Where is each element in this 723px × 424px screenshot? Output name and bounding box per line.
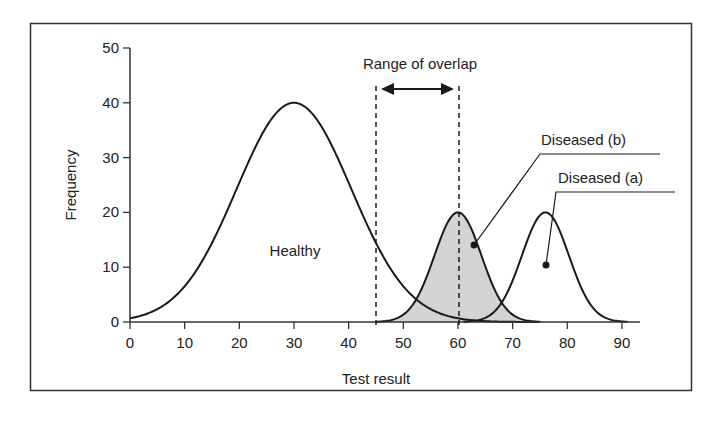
y-tick-label: 40 xyxy=(102,94,119,111)
x-tick-label: 80 xyxy=(559,334,576,351)
healthy-label: Healthy xyxy=(270,242,321,259)
x-tick-label: 50 xyxy=(395,334,412,351)
overlap-double-arrow-icon xyxy=(381,83,454,95)
x-tick-label: 0 xyxy=(126,334,134,351)
y-axis-title: Frequency xyxy=(62,149,79,220)
y-tick-label: 50 xyxy=(102,39,119,56)
x-tick-label: 20 xyxy=(231,334,248,351)
x-tick-label: 70 xyxy=(504,334,521,351)
diseased-b-shaded-area xyxy=(376,212,540,322)
x-tick-label: 30 xyxy=(286,334,303,351)
x-tick-label: 90 xyxy=(614,334,631,351)
diseased-a-leader xyxy=(543,192,676,269)
x-tick-label: 60 xyxy=(450,334,467,351)
x-axis-title: Test result xyxy=(342,370,411,387)
y-tick-labels: 01020304050 xyxy=(102,39,119,330)
diseased-a-label: Diseased (a) xyxy=(558,169,643,186)
y-tick-label: 30 xyxy=(102,149,119,166)
x-tick-label: 40 xyxy=(340,334,357,351)
x-tick-labels: 0102030405060708090 xyxy=(126,334,630,351)
chart: Range of overlap Healthy Diseased (b) Di… xyxy=(0,0,723,424)
diseased-b-label: Diseased (b) xyxy=(541,131,626,148)
y-tick-label: 0 xyxy=(111,313,119,330)
axes xyxy=(123,48,640,329)
y-tick-label: 10 xyxy=(102,258,119,275)
y-tick-label: 20 xyxy=(102,203,119,220)
overlap-label: Range of overlap xyxy=(363,55,477,72)
x-tick-label: 10 xyxy=(176,334,193,351)
